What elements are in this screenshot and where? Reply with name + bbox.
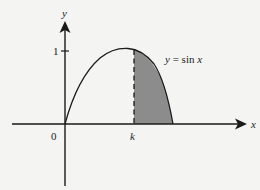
x-axis-label: x (250, 118, 256, 130)
y-axis-label: y (61, 7, 67, 19)
origin-label: 0 (51, 130, 57, 142)
sine-diagram: y 1 0 k x y = sin x (0, 0, 260, 190)
y-tick-label: 1 (53, 45, 59, 57)
curve-label: y = sin x (164, 53, 202, 65)
curve-label-eq: = sin (170, 53, 197, 65)
k-label: k (130, 130, 136, 142)
curve-label-x: x (196, 53, 202, 65)
